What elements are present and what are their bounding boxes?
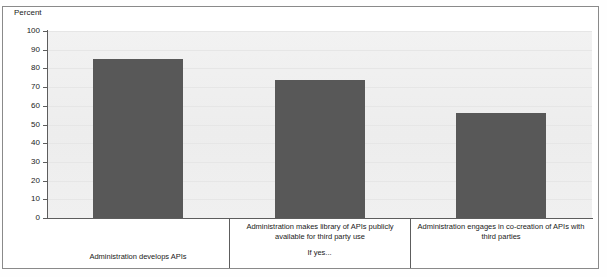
- y-axis-tick-label-wrap: 100: [0, 27, 40, 35]
- y-axis-tick-label: 50: [14, 121, 40, 129]
- category-label: Administration engages in co-creation of…: [410, 222, 592, 242]
- y-axis-tick-label: 20: [14, 177, 40, 185]
- y-axis-tick-label-wrap: 20: [0, 177, 40, 185]
- bar: [456, 113, 546, 218]
- gridline: [47, 50, 592, 51]
- y-axis-tick-mark: [43, 87, 48, 88]
- y-axis-tick-label: 0: [14, 214, 40, 222]
- y-axis-tick-mark: [43, 143, 48, 144]
- y-axis-tick-mark: [43, 162, 48, 163]
- y-axis-tick-label: 30: [14, 158, 40, 166]
- y-axis-tick-label-wrap: 80: [0, 64, 40, 72]
- y-axis-tick-label: 40: [14, 139, 40, 147]
- y-axis-tick-label-wrap: 70: [0, 83, 40, 91]
- y-axis-tick-mark: [43, 31, 48, 32]
- y-axis-tick-label-wrap: 60: [0, 102, 40, 110]
- y-axis-tick-mark: [43, 181, 48, 182]
- category-label: Administration makes library of APIs pub…: [229, 222, 411, 242]
- gridline: [47, 31, 592, 32]
- y-axis-tick-label-wrap: 90: [0, 46, 40, 54]
- y-axis-tick-label: 80: [14, 64, 40, 72]
- category-label: Administration develops APIs: [47, 252, 229, 262]
- y-axis-tick-label: 100: [14, 27, 40, 35]
- bar: [93, 59, 183, 218]
- y-axis-tick-mark: [43, 106, 48, 107]
- y-axis-tick-label: 70: [14, 83, 40, 91]
- chart-container: Percent 1009080706050403020100 Administr…: [0, 0, 607, 277]
- y-axis-tick-mark: [43, 50, 48, 51]
- y-axis-tick-label-wrap: 30: [0, 158, 40, 166]
- chart-annotation: If yes...: [229, 248, 411, 258]
- y-axis-tick-label: 60: [14, 102, 40, 110]
- y-axis-tick-mark: [43, 199, 48, 200]
- y-axis-tick-label: 90: [14, 46, 40, 54]
- y-axis-tick-mark: [43, 125, 48, 126]
- y-axis-tick-label-wrap: 0: [0, 214, 40, 222]
- y-axis-tick-label-wrap: 10: [0, 195, 40, 203]
- y-axis-tick-mark: [43, 68, 48, 69]
- y-axis-title: Percent: [14, 8, 42, 18]
- category-axis-labels: Administration develops APIsAdministrati…: [47, 219, 593, 268]
- bar: [275, 80, 365, 218]
- y-axis-tick-label: 10: [14, 195, 40, 203]
- y-axis-tick-label-wrap: 50: [0, 121, 40, 129]
- y-axis-tick-label-wrap: 40: [0, 139, 40, 147]
